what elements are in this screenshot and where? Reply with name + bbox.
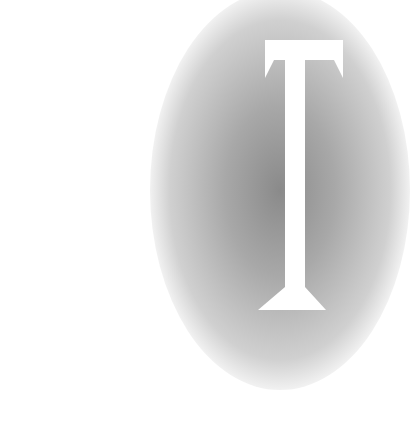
letter-t-glyph [0,0,403,439]
